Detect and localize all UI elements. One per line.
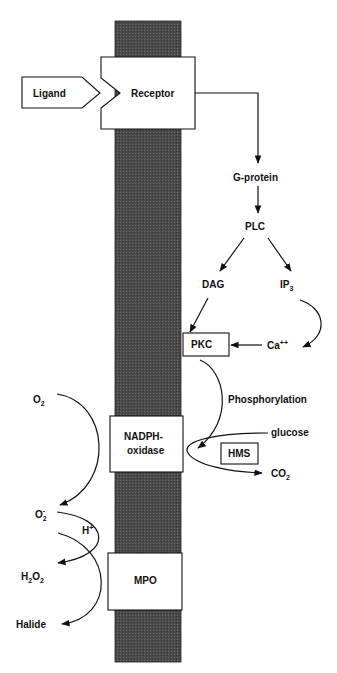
o2-label: O2: [33, 394, 45, 407]
arrow-o2-to-superoxide: [57, 394, 99, 505]
nadph-label-line2: oxidase: [127, 445, 165, 456]
g-protein-label: G-protein: [233, 172, 278, 183]
plc-label: PLC: [245, 221, 265, 232]
mpo-label: MPO: [134, 575, 157, 586]
halide-label: Halide: [16, 619, 46, 630]
arrow-h2o2-to-halide: [58, 533, 101, 624]
co2-label: CO2: [271, 468, 290, 481]
receptor-label: Receptor: [131, 88, 174, 99]
h2o2-label: H2O2: [21, 571, 44, 584]
dag-label: DAG: [202, 279, 224, 290]
nadph-oxidase-box: [110, 416, 183, 472]
neutrophil-signaling-diagram: Receptor Ligand G-protein PLC DAG IP3 PK…: [0, 0, 337, 673]
h-plus-label: H+: [82, 524, 93, 536]
arrow-dag-to-pkc: [190, 298, 208, 332]
phosphorylation-label: Phosphorylation: [228, 394, 307, 405]
ip3-label: IP3: [280, 279, 293, 292]
hms-label: HMS: [228, 448, 251, 459]
ligand-label: Ligand: [33, 88, 66, 99]
pkc-label: PKC: [191, 339, 212, 350]
arrow-phosphorylation: [198, 360, 222, 448]
arrow-ip3-to-calcium: [300, 300, 321, 347]
nadph-label-line1: NADPH-: [124, 431, 163, 442]
superoxide-label: O2-: [35, 507, 47, 522]
arrow-receptor-to-gprotein: [195, 93, 258, 163]
arrow-plc-to-dag: [220, 238, 244, 271]
calcium-label: Ca++: [267, 339, 288, 351]
arrow-plc-to-ip3: [268, 238, 291, 271]
glucose-label: glucose: [271, 427, 309, 438]
